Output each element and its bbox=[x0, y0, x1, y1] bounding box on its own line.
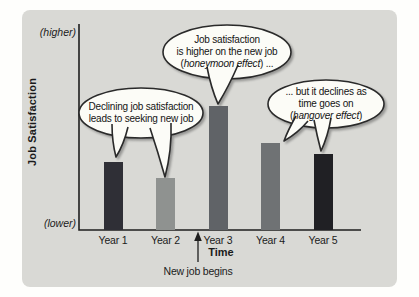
y-axis-title: Job Satisfaction bbox=[26, 57, 40, 187]
bubble-line: (hangover effect) bbox=[261, 110, 391, 122]
y-axis-higher-label: (higher) bbox=[24, 26, 76, 38]
hangover-bubble-text: ... but it declines as time goes on (han… bbox=[261, 86, 391, 122]
bubble-line: leads to seeking new job bbox=[71, 113, 211, 125]
bubble-line: is higher on the new job bbox=[152, 46, 302, 58]
declining-bubble-text: Declining job satisfaction leads to seek… bbox=[71, 101, 211, 125]
tick-label-year-2: Year 2 bbox=[144, 234, 188, 246]
tick-label-year-4: Year 4 bbox=[249, 234, 293, 246]
tick-label-year-1: Year 1 bbox=[91, 234, 135, 246]
bubble-line: ... but it declines as bbox=[261, 86, 391, 98]
bar-year-5 bbox=[314, 154, 333, 230]
bubble-line: time goes on bbox=[261, 98, 391, 110]
figure-canvas: Job Satisfaction (higher) (lower) Year 1… bbox=[0, 0, 419, 297]
bar-year-1 bbox=[104, 162, 123, 230]
bubble-line: Job satisfaction bbox=[152, 34, 302, 46]
bubble-line: (honeymoon effect) ... bbox=[152, 58, 302, 70]
bar-year-4 bbox=[261, 143, 280, 230]
y-axis-lower-label: (lower) bbox=[24, 217, 76, 229]
tick-label-year-5: Year 5 bbox=[301, 234, 345, 246]
honeymoon-bubble-text: Job satisfaction is higher on the new jo… bbox=[152, 34, 302, 70]
tick-label-year-3: Year 3 bbox=[196, 234, 240, 246]
x-axis-title: Time bbox=[191, 246, 251, 258]
bubble-line: Declining job satisfaction bbox=[71, 101, 211, 113]
bar-year-3 bbox=[209, 106, 228, 230]
bar-year-2 bbox=[156, 178, 175, 230]
new-job-begins-note: New job begins bbox=[138, 265, 258, 277]
